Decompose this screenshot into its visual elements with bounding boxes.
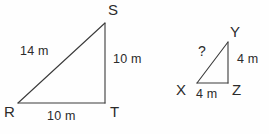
side-label-xz: 4 m — [196, 88, 217, 101]
geometry-figure: S R T 14 m 10 m 10 m Y X Z ? 4 m 4 m — [0, 0, 269, 134]
vertex-label-r: R — [4, 104, 15, 119]
vertex-label-z: Z — [232, 82, 241, 97]
triangle-rst-shape — [18, 23, 105, 103]
triangles-drawing — [0, 0, 269, 134]
side-label-st: 10 m — [113, 53, 142, 66]
vertex-label-t: T — [110, 104, 119, 119]
vertex-label-y: Y — [230, 24, 240, 39]
vertex-label-s: S — [108, 2, 118, 17]
segment-rs — [18, 23, 105, 103]
side-label-rs: 14 m — [20, 45, 49, 58]
side-label-yz: 4 m — [237, 53, 258, 66]
side-label-rt: 10 m — [47, 110, 76, 123]
side-label-xy-unknown: ? — [198, 44, 206, 58]
vertex-label-x: X — [176, 82, 186, 97]
